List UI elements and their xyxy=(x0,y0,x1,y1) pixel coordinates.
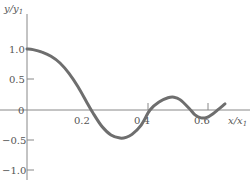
y-axis-title: y/y1 xyxy=(3,3,23,16)
y-tick-label: −1.0 xyxy=(2,165,26,176)
y-tick-label: 0 xyxy=(18,105,24,116)
y-ticks xyxy=(27,79,34,170)
x-tick-label: 0.2 xyxy=(74,115,90,126)
chart-canvas: 1.0 0.5 0 −0.5 −1.0 0.2 0.4 0.6 y/y1 x/x… xyxy=(0,0,250,189)
y-tick-label: −0.5 xyxy=(2,135,26,146)
x-axis-title: x/x1 xyxy=(228,115,247,128)
y-tick-label: 1.0 xyxy=(9,44,25,55)
y-tick-label: 0.5 xyxy=(9,74,25,85)
